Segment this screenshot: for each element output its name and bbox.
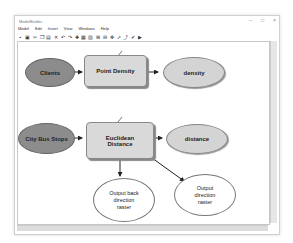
tool-point-density[interactable]: Point Density — [84, 55, 147, 87]
model-canvas[interactable]: Clients Point Density density City Bus S… — [17, 41, 270, 225]
minimize-button[interactable]: – — [249, 17, 252, 23]
modelbuilder-window: ModelBuilder – □ × Model Edit Insert Vie… — [14, 15, 280, 235]
window-title: ModelBuilder — [19, 19, 42, 24]
input-city-bus-stops-label: City Bus Stops — [25, 136, 68, 142]
vertical-scrollbar[interactable] — [270, 41, 277, 223]
zoom-out-icon[interactable]: ⊟ — [102, 34, 107, 40]
add-data-icon[interactable]: ✚ — [74, 34, 79, 40]
close-button[interactable]: × — [273, 17, 276, 23]
validate-icon[interactable]: ✔ — [130, 34, 135, 40]
full-extent-icon[interactable]: ▧ — [88, 34, 93, 40]
input-clients[interactable]: Clients — [25, 58, 75, 87]
menu-view[interactable]: View — [64, 26, 73, 33]
print-icon[interactable]: ▣ — [25, 34, 30, 40]
select-icon[interactable]: ➚ — [116, 34, 121, 40]
menu-help[interactable]: Help — [101, 26, 109, 33]
menu-windows[interactable]: Windows — [78, 26, 94, 33]
output-distance[interactable]: distance — [166, 124, 228, 154]
horizontal-scrollbar[interactable] — [17, 225, 268, 231]
input-clients-label: Clients — [40, 70, 60, 76]
delete-icon[interactable]: ✕ — [53, 34, 58, 40]
copy-icon[interactable]: ❐ — [39, 34, 44, 40]
output-distance-label: distance — [185, 136, 209, 142]
output-direction-raster[interactable]: Output direction raster — [174, 174, 236, 216]
output-density-label: density — [183, 70, 204, 76]
zoom-in-icon[interactable]: ⊞ — [95, 34, 100, 40]
auto-layout-icon[interactable]: ▦ — [81, 34, 86, 40]
output-back-direction-raster[interactable]: Output back direction raster — [93, 178, 155, 222]
maximize-button[interactable]: □ — [261, 17, 264, 23]
tool-euclidean-distance-label: Euclidean Distance — [95, 135, 145, 147]
save-icon[interactable]: ▪ — [18, 34, 23, 40]
output-back-direction-raster-label: Output back direction raster — [106, 190, 142, 211]
output-direction-raster-label: Output direction raster — [187, 185, 223, 206]
menu-edit[interactable]: Edit — [35, 26, 42, 33]
menu-bar: Model Edit Insert View Windows Help — [18, 26, 109, 33]
connect-icon[interactable]: ⤴ — [123, 34, 128, 40]
pan-icon[interactable]: ✥ — [109, 34, 114, 40]
title-bar: ModelBuilder – □ × — [15, 16, 279, 26]
menu-model[interactable]: Model — [18, 26, 29, 33]
paste-icon[interactable]: ▤ — [46, 34, 51, 40]
run-icon[interactable]: ▶ — [137, 34, 142, 40]
tool-point-density-label: Point Density — [96, 68, 134, 74]
toolbar: ▪ ▣ ✂ ❐ ▤ ✕ ↶ ↷ ✚ ▦ ▧ ⊞ ⊟ ✥ ➚ ⤴ ✔ ▶ — [18, 33, 142, 40]
redo-icon[interactable]: ↷ — [67, 34, 72, 40]
output-density[interactable]: density — [163, 57, 225, 88]
input-city-bus-stops[interactable]: City Bus Stops — [18, 123, 75, 154]
menu-insert[interactable]: Insert — [48, 26, 58, 33]
cut-icon[interactable]: ✂ — [32, 34, 37, 40]
undo-icon[interactable]: ↶ — [60, 34, 65, 40]
tool-euclidean-distance[interactable]: Euclidean Distance — [86, 122, 154, 159]
